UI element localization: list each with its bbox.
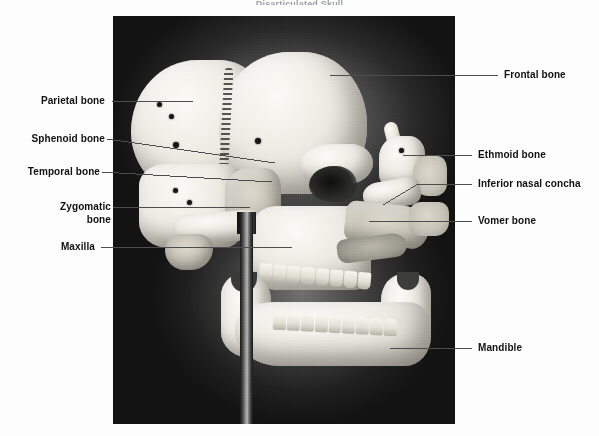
skull-anatomy-figure: Disarticulated Skull: [0, 0, 599, 436]
label-inferior-nasal-concha-text: Inferior nasal concha: [478, 178, 581, 189]
skull-photograph: [113, 16, 455, 424]
label-vomer-bone-text: Vomer bone: [478, 215, 536, 226]
photo-grain-overlay: [113, 16, 455, 424]
label-sphenoid-bone-text: Sphenoid bone: [31, 133, 105, 144]
label-zygomatic-bone-line1: Zygomatic: [60, 201, 111, 214]
label-maxilla-text: Maxilla: [61, 241, 95, 252]
label-parietal-bone: Parietal bone: [41, 95, 105, 108]
label-mandible: Mandible: [478, 342, 522, 355]
label-temporal-bone-text: Temporal bone: [28, 166, 100, 177]
label-parietal-bone-text: Parietal bone: [41, 95, 105, 106]
figure-caption-strip: Disarticulated Skull: [0, 0, 599, 5]
label-zygomatic-bone: Zygomatic bone: [60, 201, 111, 226]
label-sphenoid-bone: Sphenoid bone: [31, 133, 105, 146]
label-inferior-nasal-concha: Inferior nasal concha: [478, 178, 581, 191]
label-vomer-bone: Vomer bone: [478, 215, 536, 228]
label-frontal-bone-text: Frontal bone: [504, 69, 566, 80]
label-zygomatic-bone-line2: bone: [60, 214, 111, 227]
figure-caption-text: Disarticulated Skull: [256, 0, 344, 5]
label-maxilla: Maxilla: [61, 241, 95, 254]
label-ethmoid-bone: Ethmoid bone: [478, 149, 546, 162]
label-frontal-bone: Frontal bone: [504, 69, 566, 82]
label-ethmoid-bone-text: Ethmoid bone: [478, 149, 546, 160]
label-temporal-bone: Temporal bone: [28, 166, 100, 179]
label-mandible-text: Mandible: [478, 342, 522, 353]
